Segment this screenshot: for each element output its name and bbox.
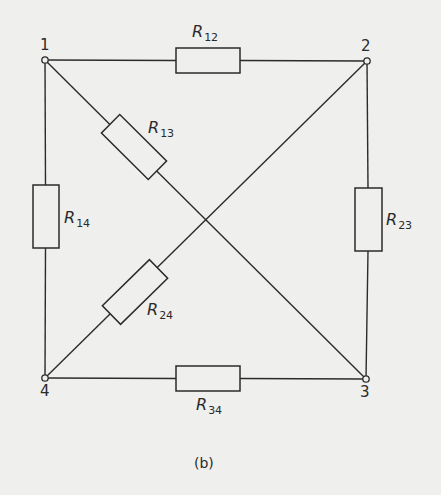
resistor-r14 (33, 185, 59, 248)
wire-4-to-r34 (45, 378, 176, 379)
resistor-symbol: R (386, 210, 397, 229)
resistor-subscript: 14 (76, 217, 90, 230)
wires (45, 60, 368, 379)
resistor-subscript: 34 (208, 404, 222, 417)
resistor-r12 (176, 48, 240, 73)
resistor-subscript: 23 (398, 219, 412, 232)
wire-r23-to-3 (366, 251, 368, 379)
resistor-network-diagram (0, 0, 441, 495)
node-1-terminal (42, 57, 48, 63)
node-4-terminal (42, 375, 48, 381)
node-label-3: 3 (360, 385, 370, 400)
wire-r34-to-3 (240, 379, 366, 380)
resistor-symbol: R (192, 22, 203, 41)
resistor-subscript: 24 (159, 309, 173, 322)
resistor-label-r12: R12 (192, 24, 218, 40)
node-3-terminal (363, 376, 369, 382)
resistor-label-r23: R23 (386, 212, 412, 228)
node-2-terminal (364, 58, 370, 64)
resistor-subscript: 13 (160, 127, 174, 140)
wire-2-to-r23 (367, 61, 368, 188)
resistor-label-r34: R34 (196, 397, 222, 413)
wire-1-to-r12 (45, 60, 176, 61)
resistor-r34 (176, 366, 240, 391)
resistor-label-r13: R13 (148, 120, 174, 136)
node-label-2: 2 (361, 39, 371, 54)
resistor-symbol: R (148, 118, 159, 137)
resistor-r23 (355, 188, 382, 251)
node-label-4: 4 (40, 384, 50, 399)
resistor-symbol: R (196, 395, 207, 414)
figure-caption: (b) (194, 455, 214, 471)
resistor-label-r24: R24 (147, 302, 173, 318)
resistor-symbol: R (64, 208, 75, 227)
resistor-symbol: R (147, 300, 158, 319)
node-label-1: 1 (40, 38, 50, 53)
wire-1-to-r14 (45, 60, 46, 185)
resistor-subscript: 12 (204, 31, 218, 44)
wire-r14-to-4 (45, 248, 46, 378)
wire-r12-to-2 (240, 61, 367, 62)
resistor-label-r14: R14 (64, 210, 90, 226)
